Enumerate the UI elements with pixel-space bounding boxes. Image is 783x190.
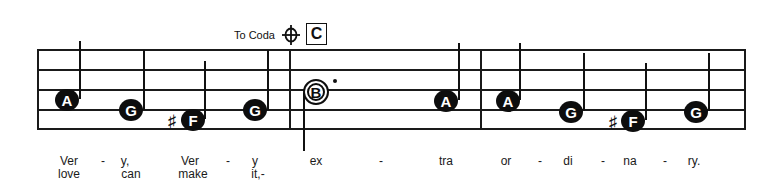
lyric-syllable: di xyxy=(563,155,572,167)
note-g: G xyxy=(243,99,267,121)
lyric-syllable: na xyxy=(623,155,636,167)
sharp-icon: ♯ xyxy=(609,114,617,130)
lyric-syllable: can xyxy=(121,168,140,180)
note-g: G xyxy=(559,101,583,123)
lyric-syllable: tra xyxy=(439,155,453,167)
note-stem xyxy=(143,50,145,110)
note-stem xyxy=(79,41,81,99)
note-stem xyxy=(519,43,521,100)
note-stem xyxy=(204,61,206,119)
note-stem xyxy=(303,93,305,151)
sharp-icon: ♯ xyxy=(168,113,176,129)
note-stem xyxy=(645,63,647,120)
note-a: A xyxy=(496,90,520,112)
lyric-hyphen: - xyxy=(601,155,605,167)
lyric-syllable: or xyxy=(501,155,512,167)
to-coda-label: To Coda xyxy=(234,29,275,41)
barline-1 xyxy=(289,49,291,130)
lyric-syllable: Ver xyxy=(181,155,199,167)
note-b-dotted-half: B xyxy=(303,79,329,105)
lyric-syllable: ry. xyxy=(688,155,700,167)
barline-2 xyxy=(480,49,482,130)
lyric-syllable: make xyxy=(178,168,207,180)
rehearsal-mark: C xyxy=(306,23,327,45)
barline-start xyxy=(37,49,39,130)
note-stem xyxy=(708,53,710,111)
lyric-hyphen: - xyxy=(226,155,230,167)
note-g: G xyxy=(119,99,143,121)
augmentation-dot xyxy=(333,79,337,83)
note-stem xyxy=(458,43,460,100)
note-f-sharp: F xyxy=(621,110,645,132)
lyric-hyphen: - xyxy=(101,155,105,167)
note-g: G xyxy=(684,101,708,123)
lyric-syllable: love xyxy=(58,168,80,180)
barline-end xyxy=(744,49,746,130)
coda-icon xyxy=(282,25,300,45)
lyric-hyphen: - xyxy=(663,155,667,167)
lyric-syllable: it,- xyxy=(251,168,264,180)
lyric-syllable: y xyxy=(252,155,258,167)
lyric-hyphen: - xyxy=(538,155,542,167)
note-a: A xyxy=(434,90,458,112)
note-stem xyxy=(267,50,269,110)
note-f-sharp: F xyxy=(181,109,205,131)
lyric-syllable: Ver xyxy=(60,155,78,167)
lyric-syllable: ex xyxy=(310,155,323,167)
lyric-syllable: y, xyxy=(121,155,129,167)
lyric-hyphen: - xyxy=(379,155,383,167)
note-stem xyxy=(583,53,585,111)
sheet-music-staff: To Coda C ♯ ♯ A G F G B A A G F G Ver - … xyxy=(0,0,783,190)
note-a: A xyxy=(55,89,79,111)
